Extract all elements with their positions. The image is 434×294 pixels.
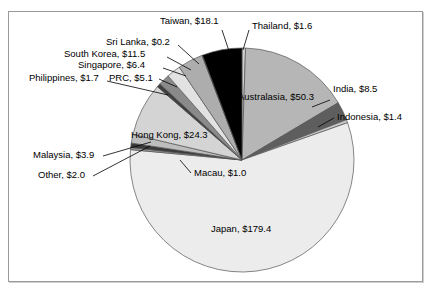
label-philippines: Philippines, $1.7 [29, 73, 99, 83]
pie-slices [130, 48, 354, 272]
chart-canvas: Taiwan, $18.1 Thailand, $1.6 Sri Lanka, … [0, 0, 434, 294]
leader-sri-lanka [178, 45, 199, 64]
label-south-korea: South Korea, $11.5 [64, 49, 145, 59]
label-thailand: Thailand, $1.6 [252, 21, 312, 31]
label-malaysia: Malaysia, $3.9 [33, 150, 94, 160]
label-prc: PRC, $5.1 [109, 73, 153, 83]
label-singapore: Singapore, $6.4 [78, 60, 145, 70]
label-hong-kong: Hong Kong, $24.3 [131, 130, 208, 140]
label-indonesia: Indonesia, $1.4 [337, 112, 402, 122]
label-macau: Macau, $1.0 [194, 168, 246, 178]
label-india: India, $8.5 [333, 84, 377, 94]
label-other: Other, $2.0 [38, 170, 85, 180]
leader-thailand [243, 30, 249, 50]
label-australasia: Australasia, $50.3 [238, 92, 314, 102]
label-japan: Japan, $179.4 [211, 224, 271, 234]
pie-chart [0, 0, 434, 294]
label-taiwan: Taiwan, $18.1 [160, 16, 219, 26]
label-sri-lanka: Sri Lanka, $0.2 [106, 37, 170, 47]
